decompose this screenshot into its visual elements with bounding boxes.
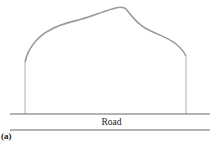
profile-curve	[25, 7, 186, 62]
figure-label: (a)	[1, 131, 12, 141]
road-label: Road	[0, 116, 223, 128]
building-profile-diagram: Road (a)	[0, 0, 223, 145]
